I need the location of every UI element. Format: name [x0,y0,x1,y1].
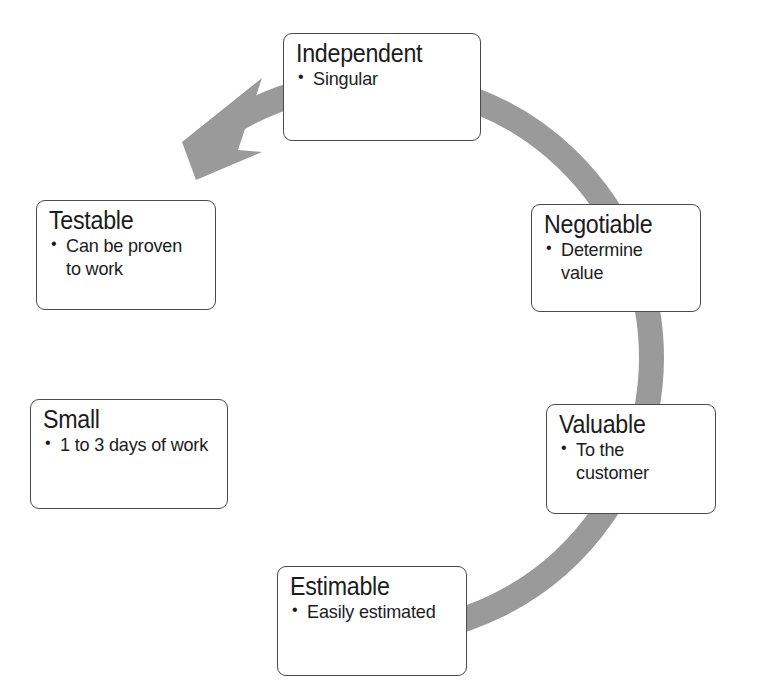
node-negotiable[interactable]: Negotiable Determine value [531,204,701,312]
cycle-diagram-canvas: Independent Singular Negotiable Determin… [0,0,770,700]
bullet-item: Determine value [544,239,683,284]
bullet-item: To the customer [559,439,698,484]
node-small-bullets: 1 to 3 days of work [43,434,217,456]
node-testable-bullets: Can be proven to work [49,235,205,280]
node-independent-bullets: Singular [296,68,470,90]
node-valuable[interactable]: Valuable To the customer [546,404,716,514]
node-independent[interactable]: Independent Singular [283,33,481,141]
node-small-title: Small [43,406,205,432]
node-estimable-title: Estimable [290,573,444,599]
node-estimable-bullets: Easily estimated [290,601,456,623]
bullet-item: 1 to 3 days of work [43,434,208,456]
node-valuable-bullets: To the customer [559,439,705,484]
ring-arc-path [196,82,652,634]
node-small[interactable]: Small 1 to 3 days of work [30,399,228,509]
node-negotiable-bullets: Determine value [544,239,690,284]
node-valuable-title: Valuable [559,411,695,437]
node-independent-title: Independent [296,40,458,66]
bullet-item: Singular [296,68,461,90]
ring-arrowhead [182,78,262,180]
node-testable[interactable]: Testable Can be proven to work [36,200,216,310]
bullet-item: Can be proven to work [49,235,197,280]
node-testable-title: Testable [49,207,194,233]
bullet-item: Easily estimated [290,601,448,623]
node-negotiable-title: Negotiable [544,211,680,237]
node-estimable[interactable]: Estimable Easily estimated [277,566,467,676]
